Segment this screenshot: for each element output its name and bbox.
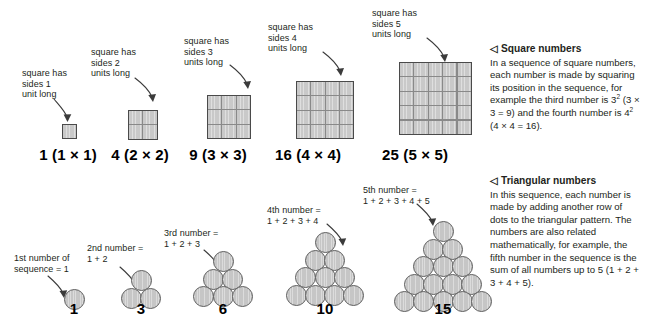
square-cell	[443, 121, 456, 134]
square-cell	[297, 111, 310, 124]
square-cell	[429, 121, 442, 134]
square-cell	[340, 82, 353, 95]
square-cell	[297, 96, 310, 109]
square-caption-3: 9 (3 × 3)	[168, 146, 268, 163]
square-cell	[326, 96, 339, 109]
square-cell	[297, 82, 310, 95]
square-cell	[326, 125, 339, 138]
square-cell	[458, 63, 471, 76]
square-callout-4: square has sides 4 units long	[268, 22, 313, 54]
square-callout-3: square has sides 3 units long	[184, 36, 229, 68]
square-figure-3	[207, 95, 251, 139]
square-cell	[443, 106, 456, 119]
square-cell	[63, 125, 76, 138]
square-cell	[400, 121, 413, 134]
square-cell	[458, 92, 471, 105]
square-cell	[311, 96, 324, 109]
square-cell	[222, 110, 235, 123]
square-cell	[222, 125, 235, 138]
square-cell	[429, 92, 442, 105]
square-cell	[143, 111, 156, 124]
square-cell	[340, 125, 353, 138]
square-cell	[458, 77, 471, 90]
square-cell	[400, 77, 413, 90]
square-cell	[208, 125, 221, 138]
square-cell	[340, 96, 353, 109]
square-cell	[311, 125, 324, 138]
panel-square-heading: ◁Square numbers	[490, 43, 642, 56]
triangle-callout-2: 2nd number = 1 + 2	[87, 243, 143, 264]
square-figure-5	[399, 62, 472, 135]
square-cell	[326, 82, 339, 95]
square-cell	[237, 110, 250, 123]
square-cell	[443, 92, 456, 105]
panel-square-body-pre: In a sequence of square numbers, each nu…	[490, 57, 636, 106]
square-cell	[311, 111, 324, 124]
square-cell	[311, 82, 324, 95]
diagram-canvas: square has sides 1 unit long square has …	[0, 0, 651, 321]
triangle-caption-2: 3	[106, 300, 176, 317]
panel-square-numbers: ◁Square numbers In a sequence of square …	[490, 43, 642, 132]
square-cell	[400, 92, 413, 105]
square-cell	[129, 125, 142, 138]
square-cell	[414, 121, 427, 134]
triangle-caption-1: 1	[39, 300, 109, 317]
square-cell	[237, 125, 250, 138]
square-cell	[208, 96, 221, 109]
square-cell	[458, 106, 471, 119]
square-callout-2: square has sides 2 units long	[91, 47, 136, 79]
square-cell	[143, 125, 156, 138]
square-cell	[208, 110, 221, 123]
panel-square-sup-2: 2	[629, 106, 633, 113]
square-cell	[414, 106, 427, 119]
square-cell	[340, 111, 353, 124]
triangle-caption-4: 10	[290, 300, 360, 317]
square-figure-1	[62, 124, 77, 139]
square-cell	[129, 111, 142, 124]
left-triangle-marker-icon: ◁	[490, 43, 498, 56]
square-callout-1: square has sides 1 unit long	[22, 68, 67, 100]
square-callout-5: square has sides 5 units long	[372, 8, 417, 40]
square-cell	[414, 92, 427, 105]
panel-triangular-numbers: ◁Triangular numbers In this sequence, ea…	[490, 175, 642, 289]
panel-triangular-body: In this sequence, each number is made by…	[490, 189, 642, 290]
square-cell	[400, 106, 413, 119]
square-cell	[443, 63, 456, 76]
square-cell	[297, 125, 310, 138]
triangle-caption-3: 6	[188, 300, 258, 317]
panel-triangular-heading-text: Triangular numbers	[501, 175, 596, 186]
square-cell	[429, 77, 442, 90]
square-figure-4	[296, 81, 354, 139]
left-triangle-marker-icon: ◁	[490, 175, 498, 188]
square-cell	[414, 77, 427, 90]
square-cell	[237, 96, 250, 109]
panel-square-heading-text: Square numbers	[501, 43, 581, 54]
triangle-callout-3: 3rd number = 1 + 2 + 3	[164, 228, 218, 249]
square-figure-2	[128, 110, 158, 140]
square-cell	[443, 77, 456, 90]
square-cell	[414, 63, 427, 76]
square-caption-4: 16 (4 × 4)	[258, 146, 358, 163]
square-cell	[429, 106, 442, 119]
square-cell	[429, 63, 442, 76]
triangle-callout-1: 1st number of sequence = 1	[14, 253, 70, 274]
square-arrow-2-icon	[133, 76, 165, 106]
panel-square-body: In a sequence of square numbers, each nu…	[490, 57, 642, 133]
panel-triangular-heading: ◁Triangular numbers	[490, 175, 642, 188]
square-arrow-3-icon	[228, 63, 260, 93]
triangle-callout-4: 4th number = 1 + 2 + 3 + 4	[267, 205, 321, 226]
square-cell	[326, 111, 339, 124]
square-cell	[400, 63, 413, 76]
square-cell	[458, 121, 471, 134]
square-arrow-4-icon	[321, 50, 353, 80]
triangle-caption-5: 15	[408, 300, 478, 317]
triangle-callout-5: 5th number = 1 + 2 + 3 + 4 + 5	[363, 185, 430, 206]
square-cell	[222, 96, 235, 109]
square-arrow-1-icon	[52, 97, 82, 125]
panel-square-body-post: (4 × 4 = 16).	[490, 120, 542, 131]
square-caption-5: 25 (5 × 5)	[361, 146, 469, 163]
